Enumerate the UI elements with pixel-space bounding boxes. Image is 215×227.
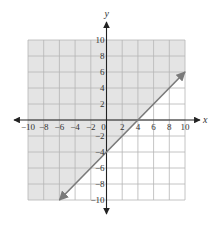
- x-tick-label: 4: [136, 122, 141, 132]
- y-tick-label: −10: [90, 195, 105, 205]
- y-tick-label: 4: [100, 83, 105, 93]
- x-tick-label: 10: [181, 122, 191, 132]
- y-tick-label: −2: [95, 131, 105, 141]
- y-tick-label: 10: [96, 35, 106, 45]
- y-tick-label: −4: [95, 147, 105, 157]
- x-tick-label: −4: [70, 122, 80, 132]
- x-tick-label: −8: [39, 122, 49, 132]
- y-tick-label: 2: [100, 99, 105, 109]
- y-axis-label: y: [104, 8, 110, 19]
- x-tick-label: 8: [167, 122, 172, 132]
- y-tick-label: −8: [95, 179, 105, 189]
- y-tick-label: 8: [100, 51, 105, 61]
- x-tick-label: −10: [21, 122, 36, 132]
- coordinate-plane: −10−8−6−4−20246810108642−2−4−6−8−10 x y: [0, 0, 215, 227]
- x-tick-label: 2: [120, 122, 125, 132]
- y-tick-label: 6: [100, 67, 105, 77]
- y-tick-label: −6: [95, 163, 105, 173]
- x-tick-label: 6: [151, 122, 156, 132]
- x-tick-label: −6: [55, 122, 65, 132]
- x-axis-label: x: [202, 114, 208, 125]
